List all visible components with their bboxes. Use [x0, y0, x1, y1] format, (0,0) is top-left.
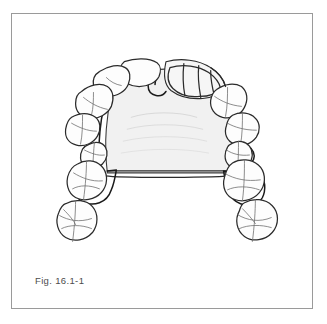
figure-caption: Fig. 16.1-1 — [35, 275, 84, 286]
tooth-left-first-molar — [67, 161, 106, 200]
tooth-right-second-molar — [237, 200, 278, 242]
tooth-left-second-molar — [57, 201, 97, 242]
tooth-left-first-premolar — [66, 114, 100, 146]
dental-arch-illustration: .ol { fill:none; stroke:#2b2b2b; stroke-… — [12, 14, 312, 308]
figure-frame: .ol { fill:none; stroke:#2b2b2b; stroke-… — [11, 13, 313, 309]
figure-root: .ol { fill:none; stroke:#2b2b2b; stroke-… — [0, 0, 327, 324]
tooth-right-first-premolar — [225, 113, 259, 145]
tooth-right-first-molar — [224, 160, 265, 201]
